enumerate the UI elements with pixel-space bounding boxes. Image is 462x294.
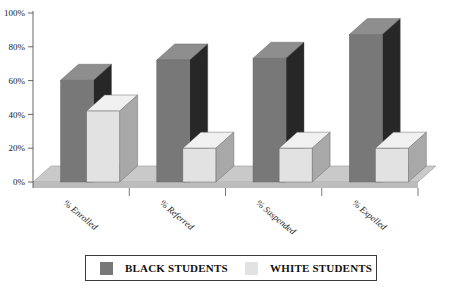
legend-swatch-white-students: [245, 262, 258, 275]
legend-item-white-students: WHITE STUDENTS: [231, 262, 376, 275]
y-axis-label-2: 40%: [9, 110, 26, 120]
x-axis-category-label-referred: % Referred: [158, 198, 196, 232]
legend-label-black-students: BLACK STUDENTS: [125, 262, 228, 274]
bar-front-face: [87, 111, 120, 182]
x-axis-category-label-expelled: % Expelled: [351, 198, 389, 232]
chart-legend: BLACK STUDENTS WHITE STUDENTS: [85, 255, 377, 281]
y-axis-label-3: 60%: [9, 76, 26, 86]
chart-plot-area: 0%20%40%60%80%100%% Enrolled% Referred% …: [0, 0, 462, 294]
bar-front-face: [183, 148, 216, 182]
y-axis-label-0: 0%: [13, 177, 26, 187]
bar-chart: 0%20%40%60%80%100%% Enrolled% Referred% …: [0, 0, 462, 294]
legend-swatch-black-students: [100, 262, 113, 275]
x-axis-category-label-enrolled: % Enrolled: [62, 198, 100, 232]
x-axis-category-label-suspended: % Suspended: [254, 198, 298, 237]
y-axis-label-1: 20%: [9, 143, 26, 153]
y-axis-label-4: 80%: [9, 42, 26, 52]
legend-label-white-students: WHITE STUDENTS: [270, 262, 372, 274]
bar-white-students-enrolled: [87, 95, 138, 182]
legend-item-black-students: BLACK STUDENTS: [86, 262, 231, 275]
bar-front-face: [375, 148, 408, 182]
bar-front-face: [279, 148, 312, 182]
y-axis-label-5: 100%: [4, 8, 26, 18]
chart-floor-front: [33, 182, 418, 188]
